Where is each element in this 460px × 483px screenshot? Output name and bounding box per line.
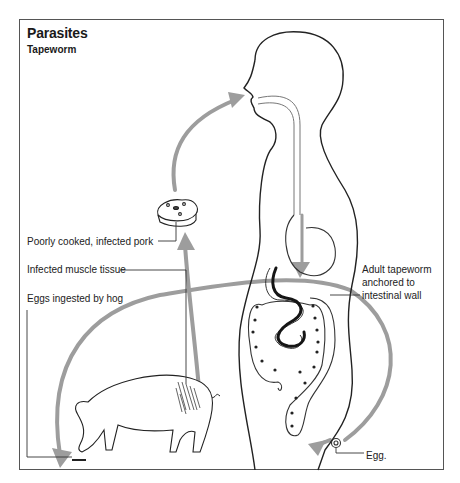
intestine-eggs [251,304,319,427]
arrow-head-hog [52,448,72,468]
egg [332,439,341,448]
arrow-head-mouth [228,92,245,108]
arrow-head-stomach [292,262,310,278]
hog [76,375,213,452]
large-intestine [249,298,336,436]
pork-steak [158,200,198,227]
hog-tail [212,394,220,398]
label-eggs-ingested: Eggs ingested by hog [27,292,123,305]
label-egg: Egg. [366,449,387,462]
label-infected-pork: Poorly cooked, infected pork [27,235,153,248]
arrow-head-pork [177,232,195,250]
figure-title: Parasites [27,25,87,41]
label-adult-tapeworm: Adult tapeworm anchored to intestinal wa… [362,263,442,302]
label-muscle-tissue: Infected muscle tissue [27,263,126,276]
figure-subtitle: Tapeworm [27,44,76,55]
human-figure [239,32,357,470]
